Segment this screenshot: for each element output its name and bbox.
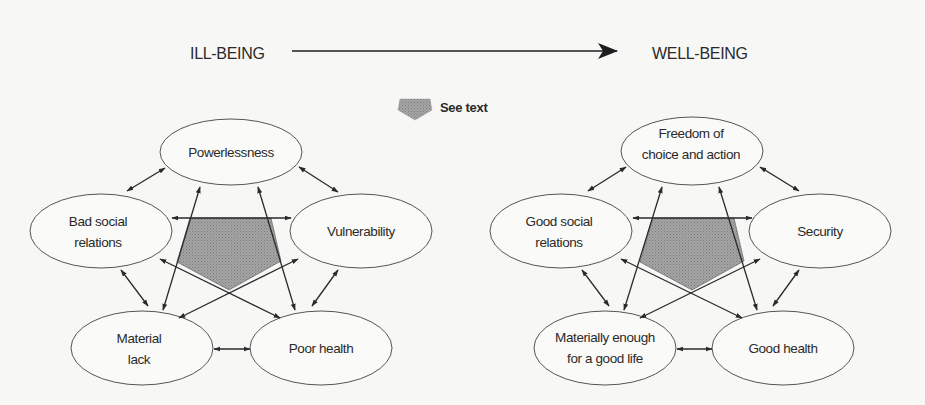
node-label: lack (128, 352, 151, 367)
node-label: relations (74, 235, 122, 250)
ill-being-label: ILL-BEING (190, 45, 265, 62)
node-label: Security (797, 224, 843, 239)
edge-arrow-icon (121, 270, 148, 306)
node-label: relations (535, 235, 583, 250)
node-label: Poor health (289, 341, 354, 356)
node-label: Vulnerability (327, 224, 395, 239)
edge-arrow-icon (127, 168, 165, 191)
shaded-pentagon-icon (398, 99, 432, 120)
well-being-label: WELL-BEING (652, 45, 748, 62)
node-label: Good health (748, 341, 817, 356)
node-good-social-relations (490, 194, 632, 268)
node-materially-enough (534, 311, 676, 385)
legend-label: See text (440, 100, 488, 115)
edge-arrow-icon (582, 270, 609, 306)
node-label: Bad social (69, 214, 128, 229)
shaded-pentagon (640, 218, 744, 290)
edge-arrow-icon (312, 270, 338, 306)
well-being-diagram: Freedom of choice and action Good social… (490, 117, 891, 385)
node-label: Good social (526, 214, 593, 229)
node-label: for a good life (567, 351, 643, 366)
node-material-lack (71, 311, 213, 385)
node-label: Material (117, 331, 162, 346)
ill-being-diagram: Powerlessness Bad social relations Vulne… (30, 119, 432, 385)
edge-arrow-icon (773, 270, 799, 306)
edge-arrow-icon (760, 167, 799, 191)
header: ILL-BEING WELL-BEING (190, 45, 748, 62)
diagram-canvas: ILL-BEING WELL-BEING See text Powerlessn… (0, 0, 925, 405)
node-label: Powerlessness (188, 145, 274, 160)
node-label: choice and action (642, 147, 740, 162)
edge-arrow-icon (299, 167, 338, 192)
node-label: Freedom of (658, 126, 724, 141)
node-bad-social-relations (30, 194, 172, 268)
node-label: Materially enough (555, 330, 655, 345)
edge-arrow-icon (588, 167, 626, 191)
legend: See text (398, 99, 488, 120)
shaded-pentagon (177, 218, 281, 290)
